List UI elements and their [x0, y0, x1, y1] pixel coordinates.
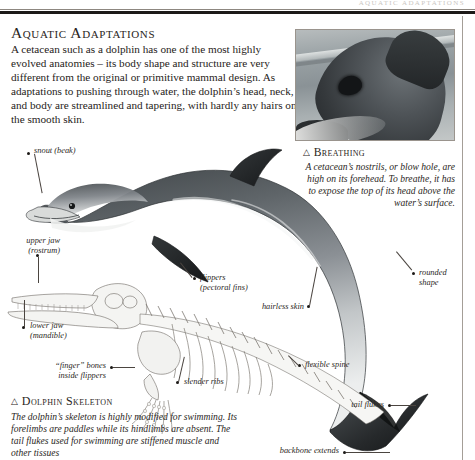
header-rule-thick — [0, 11, 475, 14]
running-head-text: AQUATIC ADAPTATIONS — [359, 0, 465, 7]
column-divider-rule — [462, 16, 463, 460]
running-head: AQUATIC ADAPTATIONS — [0, 0, 475, 14]
intro-paragraph: A cetacean such as a dolphin has one of … — [11, 43, 299, 126]
skeleton-caption: △ Dolphin Skeleton The dolphin’s skeleto… — [11, 394, 241, 459]
triangle-marker-icon-2: △ — [11, 396, 18, 406]
label-tail-flukes: tail flukes — [330, 400, 384, 410]
label-flexible-spine: flexible spine — [305, 360, 349, 370]
label-rounded-shape: rounded shape — [419, 268, 447, 288]
leader-line-backbone — [346, 452, 390, 453]
header-rule-thin — [0, 9, 475, 10]
leader-line-finger-bones — [113, 367, 135, 368]
label-hairless-skin: hairless skin — [238, 302, 304, 312]
leader-line-tail-flukes — [391, 405, 416, 406]
skeleton-caption-title: △ Dolphin Skeleton — [11, 394, 241, 409]
leader-line-lower-jaw — [24, 300, 25, 327]
skeleton-caption-body: The dolphin’s skeleton is highly modifie… — [11, 411, 241, 459]
label-flippers: flippers (pectoral fins) — [200, 273, 248, 293]
blowhole-photo — [295, 29, 455, 141]
label-snout: snout (beak) — [34, 146, 76, 156]
skeleton-title-text: Dolphin Skeleton — [22, 394, 113, 408]
label-backbone-extends: backbone extends — [272, 446, 339, 456]
book-page: AQUATIC ADAPTATIONS Aquatic Adaptations … — [0, 0, 475, 460]
label-slender-ribs: slender ribs — [184, 377, 224, 387]
label-upper-jaw: upper jaw (rostrum) — [0, 236, 60, 256]
label-finger-bones: “finger” bones inside flippers — [36, 361, 106, 381]
leader-line-upper-jaw — [38, 257, 39, 283]
page-title: Aquatic Adaptations — [11, 24, 155, 42]
label-lower-jaw: lower jaw (mandible) — [30, 321, 67, 341]
